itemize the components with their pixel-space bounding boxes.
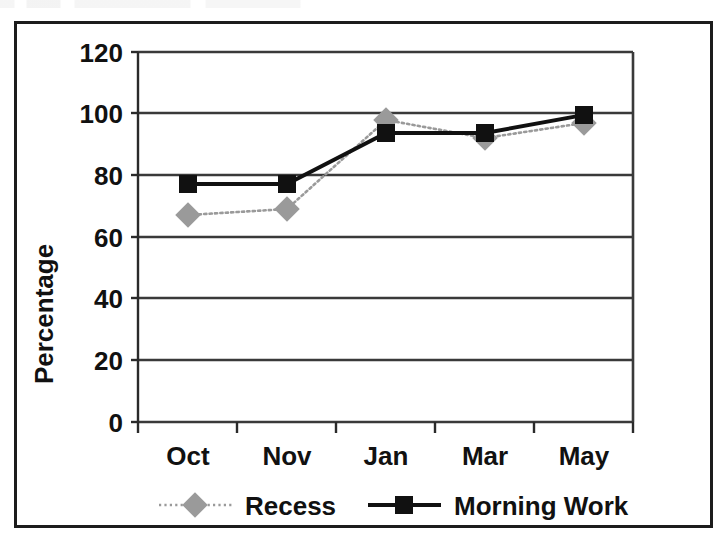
morning-work-marker-oct bbox=[179, 175, 197, 193]
legend-swatch-recess-diamond-icon bbox=[182, 492, 207, 517]
x-tick-label-may: May bbox=[559, 441, 610, 471]
gridlines bbox=[138, 52, 633, 422]
scan-artifact-strip bbox=[0, 0, 330, 8]
chart-frame: 120 100 80 60 40 20 0 Percentage Oct Nov… bbox=[14, 21, 713, 528]
recess-marker-nov bbox=[274, 196, 299, 221]
legend-label-recess: Recess bbox=[245, 491, 336, 521]
y-tick-label-120: 120 bbox=[80, 38, 123, 68]
x-tick-label-mar: Mar bbox=[462, 441, 508, 471]
percentage-line-chart: 120 100 80 60 40 20 0 Percentage Oct Nov… bbox=[17, 24, 710, 525]
y-axis: 120 100 80 60 40 20 0 bbox=[80, 38, 138, 438]
x-axis: Oct Nov Jan Mar May bbox=[138, 422, 633, 471]
y-tick-label-40: 40 bbox=[94, 284, 123, 314]
y-tick-label-20: 20 bbox=[94, 346, 123, 376]
morning-work-marker-mar bbox=[476, 124, 494, 142]
y-tick-label-100: 100 bbox=[80, 99, 123, 129]
morning-work-marker-jan bbox=[377, 124, 395, 142]
recess-marker-oct bbox=[175, 202, 200, 227]
legend-item-morning-work[interactable]: Morning Work bbox=[368, 491, 629, 521]
x-tick-label-oct: Oct bbox=[166, 441, 210, 471]
morning-work-marker-nov bbox=[278, 175, 296, 193]
x-tick-label-nov: Nov bbox=[262, 441, 312, 471]
y-axis-title: Percentage bbox=[29, 244, 59, 384]
y-tick-label-0: 0 bbox=[109, 408, 123, 438]
chart-legend: Recess Morning Work bbox=[159, 491, 629, 521]
legend-label-morning-work: Morning Work bbox=[454, 491, 629, 521]
legend-item-recess[interactable]: Recess bbox=[159, 491, 336, 521]
morning-work-marker-may bbox=[575, 106, 593, 124]
y-tick-label-80: 80 bbox=[94, 161, 123, 191]
legend-swatch-morning-work-square-icon bbox=[395, 496, 413, 514]
y-tick-label-60: 60 bbox=[94, 223, 123, 253]
x-tick-label-jan: Jan bbox=[364, 441, 409, 471]
